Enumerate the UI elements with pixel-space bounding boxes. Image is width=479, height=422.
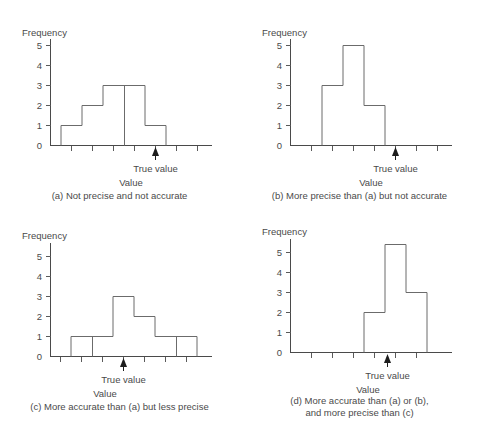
y-tick-marks-d [286,253,291,333]
y-tick-3: 3 [37,291,42,302]
y-tick-3: 3 [277,287,282,298]
y-tick-5: 5 [37,251,42,262]
x-axis-label: Value [119,177,143,188]
histogram-bars-d [364,245,427,353]
y-tick-4: 4 [37,271,42,282]
y-tick-5: 5 [277,247,282,258]
true-value-label: True value [373,163,418,174]
panel-b-plot: Frequency 5 4 3 2 1 0 [240,0,479,190]
panel-b: Frequency 5 4 3 2 1 0 [240,0,479,211]
true-value-arrow-c [120,358,127,371]
y-tick-5: 5 [37,40,42,51]
y-tick-2: 2 [277,307,282,318]
histogram-bars-a [61,86,166,146]
panel-d-plot: Frequency 5 4 3 2 1 0 [240,211,479,395]
y-tick-2: 2 [37,311,42,322]
histogram-bars-c [71,297,197,357]
true-value-label: True value [365,370,410,381]
true-value-label: True value [133,163,178,174]
x-tick-marks-b [312,146,438,152]
panel-a-plot: Frequency 5 4 3 2 1 0 [0,0,239,190]
y-tick-4: 4 [277,60,282,71]
y-axis-label: Frequency [22,27,67,38]
y-axis-label: Frequency [262,27,307,38]
x-axis-label: Value [359,177,383,188]
y-tick-4: 4 [37,60,42,71]
y-axis-ticks-b: 5 4 3 2 1 0 [277,40,282,151]
panel-a-caption: (a) Not precise and not accurate [0,190,239,202]
y-tick-0: 0 [37,351,42,362]
y-tick-2: 2 [277,100,282,111]
y-tick-0: 0 [277,347,282,358]
panel-d-caption: (d) More accurate than (a) or (b), and m… [240,395,479,419]
x-axis-label: Value [93,388,117,399]
x-tick-marks-d [312,353,417,359]
y-tick-0: 0 [277,140,282,151]
y-axis-ticks-c: 5 4 3 2 1 0 [37,251,42,362]
y-tick-1: 1 [277,120,282,131]
y-tick-1: 1 [277,327,282,338]
true-value-arrow-a [152,147,159,160]
y-tick-5: 5 [277,40,282,51]
panel-d: Frequency 5 4 3 2 1 0 [240,211,479,422]
panel-c: Frequency 5 4 3 2 1 0 [0,211,239,422]
y-tick-0: 0 [37,140,42,151]
y-axis-ticks-d: 5 4 3 2 1 0 [277,247,282,358]
panel-c-plot: Frequency 5 4 3 2 1 0 [0,211,239,401]
x-axis-label: Value [356,384,380,395]
y-axis-label: Frequency [22,230,67,241]
true-value-label: True value [101,374,146,385]
y-axis-ticks-a: 5 4 3 2 1 0 [37,40,42,151]
true-value-arrow-d [384,354,391,367]
precision-accuracy-figure: Frequency 5 4 3 2 1 0 [0,0,479,422]
y-tick-4: 4 [277,267,282,278]
y-tick-3: 3 [277,80,282,91]
panel-a: Frequency 5 4 3 2 1 0 [0,0,239,211]
panel-b-caption: (b) More precise than (a) but not accura… [240,190,479,202]
panel-c-caption: (c) More accurate than (a) but less prec… [0,401,239,413]
bar-inner-dividers-c [93,337,177,357]
x-tick-marks-a [72,146,198,152]
histogram-bars-b [322,46,385,146]
y-tick-3: 3 [37,80,42,91]
y-tick-1: 1 [37,331,42,342]
y-tick-marks-c [46,257,51,337]
y-tick-2: 2 [37,100,42,111]
y-tick-marks-a [46,46,51,126]
true-value-arrow-b [392,147,399,160]
y-axis-label: Frequency [262,226,307,237]
y-tick-marks-b [286,46,291,126]
y-tick-1: 1 [37,120,42,131]
